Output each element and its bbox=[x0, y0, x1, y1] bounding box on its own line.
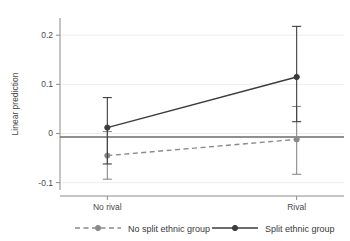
legend-swatch-marker bbox=[95, 225, 100, 230]
legend-label: Split ethnic group bbox=[265, 224, 335, 234]
data-point-marker bbox=[294, 74, 299, 79]
data-point-marker bbox=[105, 125, 110, 130]
y-tick-label: 0.2 bbox=[41, 30, 53, 40]
y-axis-title: Linear prediction bbox=[10, 72, 20, 135]
y-tick-label: 0 bbox=[48, 128, 53, 138]
legend-swatch-marker bbox=[232, 225, 237, 230]
y-tick-label: 0.1 bbox=[41, 79, 53, 89]
y-tick-label: -0.1 bbox=[38, 178, 53, 188]
data-point-marker bbox=[294, 137, 299, 142]
x-tick-label: No rival bbox=[93, 202, 122, 212]
x-tick-label: Rival bbox=[287, 202, 306, 212]
legend-label: No split ethnic group bbox=[128, 224, 210, 234]
chart-container: 0.20.10-0.1 No rivalRival Linear predict… bbox=[0, 0, 350, 241]
linear-prediction-chart: 0.20.10-0.1 No rivalRival Linear predict… bbox=[0, 0, 350, 241]
